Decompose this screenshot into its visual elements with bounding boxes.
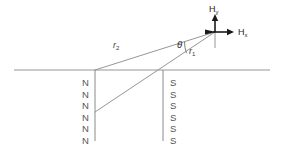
south-pole-letter: S (170, 100, 176, 111)
hy-subscript: y (216, 9, 219, 15)
south-pole-letter: S (170, 89, 176, 100)
north-pole-letter: N (82, 89, 89, 100)
magnetic-dipole-diagram: N N N N N N S S S S S S r2 r1 θ Hy Hx (0, 0, 284, 146)
ray-r2-subscript: 2 (116, 45, 120, 51)
ray-r1-label: r1 (189, 46, 196, 57)
south-pole-letter: S (170, 123, 176, 134)
hy-vector-label: Hy (209, 4, 219, 15)
ray-r1-subscript: 1 (192, 51, 196, 57)
north-pole-letter: N (82, 77, 89, 88)
ray-r2-line (95, 32, 215, 70)
north-pole-letter: N (82, 123, 89, 134)
hx-subscript: x (245, 32, 248, 38)
hx-vector-label: Hx (238, 27, 248, 38)
north-pole-letter: N (82, 100, 89, 111)
ray-r2-label: r2 (113, 40, 120, 51)
south-pole-letter: S (170, 77, 176, 88)
theta-angle-label: θ (177, 39, 183, 50)
south-pole-letter: S (170, 112, 176, 123)
north-pole-letter: N (82, 112, 89, 123)
north-pole-letter: N (82, 135, 89, 146)
hx-arrow-head (227, 29, 234, 35)
south-pole-letter: S (170, 135, 176, 146)
diagram-canvas: N N N N N N S S S S S S r2 r1 θ Hy Hx (0, 0, 284, 146)
theta-angle-arc (184, 42, 186, 53)
